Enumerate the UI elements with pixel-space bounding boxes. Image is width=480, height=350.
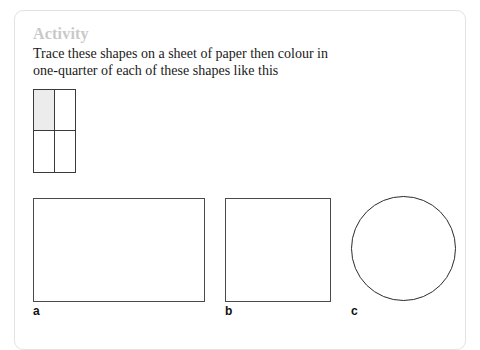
activity-card: Activity Trace these shapes on a sheet o… — [14, 10, 466, 350]
example-cell-top-left-shaded — [34, 90, 55, 131]
activity-heading: Activity — [33, 25, 89, 43]
shape-row: a b c — [15, 198, 467, 338]
example-quarter-shaded-grid — [33, 89, 76, 173]
example-cell-bottom-left — [34, 131, 55, 172]
shape-slot-b: b — [225, 198, 331, 302]
example-cell-bottom-right — [55, 131, 76, 172]
shape-slot-a: a — [33, 198, 205, 302]
shape-label-a: a — [33, 304, 40, 318]
shape-rectangle-a — [33, 198, 205, 302]
instruction-line-1: Trace these shapes on a sheet of paper t… — [33, 45, 433, 62]
shape-label-b: b — [225, 304, 232, 318]
instruction-line-2: one-quarter of each of these shapes like… — [33, 62, 433, 79]
shape-square-b — [225, 198, 331, 302]
instruction-text: Trace these shapes on a sheet of paper t… — [33, 45, 433, 79]
shape-label-c: c — [351, 304, 358, 318]
example-cell-top-right — [55, 90, 76, 131]
shape-circle-c — [351, 196, 456, 301]
shape-slot-c: c — [351, 198, 457, 301]
